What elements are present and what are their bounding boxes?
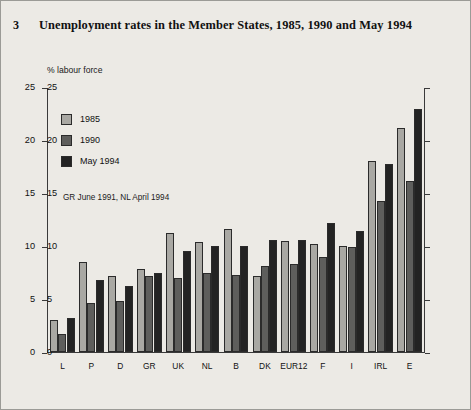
y-tick-right-25	[425, 88, 430, 89]
bar-nl-1990	[203, 273, 211, 353]
bar-group-nl	[195, 88, 220, 352]
x-label-p: P	[77, 361, 106, 371]
bar-d-1990	[116, 301, 124, 352]
bar-b-may-1994	[240, 246, 248, 352]
bar-group-e	[397, 88, 422, 352]
bar-uk-may-1994	[183, 251, 191, 352]
chart-footnote: GR June 1991, NL April 1994	[63, 193, 169, 202]
y-tick-label-left-25: 25	[13, 83, 35, 92]
bar-b-1985	[224, 229, 232, 352]
bar-p-may-1994	[96, 280, 104, 352]
bar-dk-1985	[253, 276, 261, 352]
bar-e-1990	[406, 181, 414, 352]
legend-item: 1990	[61, 135, 120, 146]
y-tick-right-20	[425, 141, 430, 142]
bar-b-1990	[232, 275, 240, 352]
x-label-b: B	[222, 361, 251, 371]
bar-irl-1990	[377, 201, 385, 352]
bar-l-may-1994	[67, 318, 75, 352]
bar-dk-may-1994	[269, 240, 277, 352]
legend-label-1985: 1985	[80, 114, 100, 125]
legend-label-may-1994: May 1994	[80, 156, 120, 167]
y-tick-label-left-0: 0	[13, 348, 35, 357]
y-tick-label-left-15: 15	[13, 189, 35, 198]
x-label-irl: IRL	[366, 361, 395, 371]
bar-uk-1990	[174, 278, 182, 352]
legend-item: May 1994	[61, 156, 120, 167]
x-label-e: E	[395, 361, 424, 371]
x-label-i: I	[337, 361, 366, 371]
y-axis-unit-label: % labour force	[47, 65, 102, 75]
x-label-eur12: EUR12	[279, 361, 308, 371]
y-tick-label-left-20: 20	[13, 136, 35, 145]
bar-f-1990	[319, 257, 327, 352]
legend-swatch-1985	[61, 114, 72, 125]
x-label-dk: DK	[250, 361, 279, 371]
bar-irl-may-1994	[385, 164, 393, 352]
figure-panel: 3 Unemployment rates in the Member State…	[0, 0, 471, 410]
bar-group-f	[310, 88, 335, 352]
x-label-d: D	[106, 361, 135, 371]
x-label-nl: NL	[193, 361, 222, 371]
bar-nl-1985	[195, 242, 203, 352]
page-title: Unemployment rates in the Member States,…	[39, 18, 412, 34]
bar-l-1990	[58, 334, 66, 352]
x-axis-category-labels: LPDGRUKNLBDKEUR12FIIRLE	[47, 361, 425, 375]
bar-d-1985	[108, 276, 116, 352]
bar-group-gr	[137, 88, 162, 352]
bar-eur12-1990	[290, 264, 298, 352]
figure-title-row: 3 Unemployment rates in the Member State…	[13, 18, 453, 34]
bar-gr-1985	[137, 269, 145, 352]
bar-group-irl	[368, 88, 393, 352]
bar-irl-1985	[368, 161, 376, 352]
bar-group-i	[339, 88, 364, 352]
figure-number: 3	[13, 18, 39, 33]
bar-e-1985	[397, 128, 405, 352]
bar-group-eur12	[281, 88, 306, 352]
bar-i-1990	[348, 247, 356, 352]
bar-i-1985	[339, 246, 347, 352]
bar-nl-may-1994	[211, 246, 219, 352]
bar-e-may-1994	[414, 109, 422, 352]
bar-f-may-1994	[327, 223, 335, 352]
bar-l-1985	[50, 320, 58, 352]
bar-uk-1985	[166, 233, 174, 352]
y-tick-right-5	[425, 300, 430, 301]
bar-eur12-1985	[281, 241, 289, 352]
legend-label-1990: 1990	[80, 135, 100, 146]
bar-group-dk	[253, 88, 278, 352]
y-tick-label-left-5: 5	[13, 295, 35, 304]
chart-legend: 1985 1990 May 1994	[61, 114, 120, 177]
bar-group-b	[224, 88, 249, 352]
y-tick-right-10	[425, 247, 430, 248]
y-axis-right	[424, 88, 425, 353]
bar-p-1985	[79, 262, 87, 352]
legend-swatch-may-1994	[61, 156, 72, 167]
x-label-l: L	[48, 361, 77, 371]
y-tick-right-15	[425, 194, 430, 195]
bar-f-1985	[310, 244, 318, 352]
x-label-gr: GR	[135, 361, 164, 371]
legend-item: 1985	[61, 114, 120, 125]
bar-group-uk	[166, 88, 191, 352]
bar-i-may-1994	[356, 231, 364, 352]
bar-d-may-1994	[125, 286, 133, 352]
bar-dk-1990	[261, 266, 269, 352]
y-tick-label-left-10: 10	[13, 242, 35, 251]
x-axis	[47, 352, 425, 353]
x-label-uk: UK	[164, 361, 193, 371]
x-label-f: F	[308, 361, 337, 371]
bar-gr-may-1994	[154, 273, 162, 353]
bar-gr-1990	[145, 276, 153, 352]
bar-p-1990	[87, 303, 95, 352]
bar-eur12-may-1994	[298, 240, 306, 352]
y-tick-right-0	[425, 353, 430, 354]
legend-swatch-1990	[61, 135, 72, 146]
